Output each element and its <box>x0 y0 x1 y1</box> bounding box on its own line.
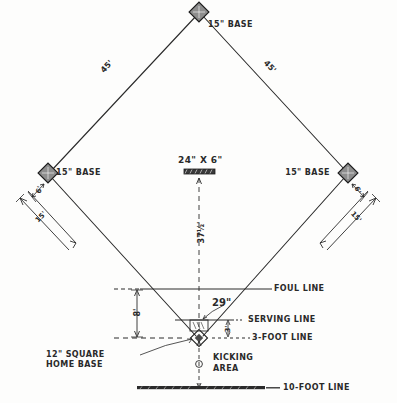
pitching-rubber-marker <box>184 169 215 174</box>
baseline-second-to-first <box>202 15 345 170</box>
third-base-label: 15" BASE <box>56 168 101 177</box>
ten-foot-dimension <box>196 341 203 388</box>
foul-line-label: FOUL LINE <box>274 284 324 293</box>
second-base-label: 15" BASE <box>208 20 253 29</box>
pitch-distance-label: 37½' <box>197 222 206 244</box>
foul-to-three-foot-label: 8' <box>133 308 142 316</box>
home-base-label: 12" SQUARE HOME BASE <box>46 350 118 370</box>
ten-foot-line-graphic <box>137 386 280 389</box>
serving-line-label: SERVING LINE <box>248 315 316 324</box>
kicking-box-width-label: 29" <box>212 297 231 308</box>
right-fifteen-foot-dim-line-outer <box>327 198 376 250</box>
three-foot-line-label: 3-FOOT LINE <box>252 333 313 342</box>
foul-line-left <box>51 177 196 336</box>
foul-line-right <box>203 177 345 336</box>
field-drawing <box>0 0 397 403</box>
pitch-distance-dimension <box>197 178 202 330</box>
serving-to-three-foot-label: 3' <box>224 325 232 332</box>
kickball-field-diagram: 15" BASE 15" BASE 15" BASE 45' 45' 24" x… <box>0 0 397 403</box>
baseline-third-to-second <box>52 15 197 170</box>
home-base-leader <box>140 339 192 355</box>
first-base-label: 15" BASE <box>285 168 330 177</box>
kicking-area-label: KICKING AREA <box>213 352 257 374</box>
ten-foot-line-label: 10-FOOT LINE <box>283 383 350 392</box>
left-fifteen-foot-dim-line-outer <box>20 198 69 250</box>
pitching-rubber-label: 24" x 6" <box>178 155 223 165</box>
